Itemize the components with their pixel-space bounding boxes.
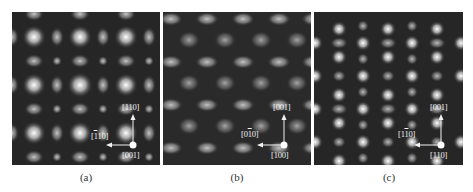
axis-label-vertical-c: [001] — [430, 103, 447, 112]
caption-b: (b) — [217, 171, 257, 183]
axis-label-zone-a: [001] — [122, 151, 139, 160]
panel-b-lattice-image: [001] [010] [100] — [163, 12, 311, 165]
axis-label-vertical-a: [110] — [122, 103, 139, 112]
axis-label-zone-b: [100] — [271, 151, 288, 160]
axis-label-horizontal-a: [110] — [91, 132, 108, 141]
axis-arrows-a — [12, 12, 160, 165]
panel-a-lattice-image: [110] [110] [001] — [12, 12, 160, 165]
caption-a: (a) — [66, 171, 106, 183]
axis-arrows-c — [314, 12, 463, 165]
axis-arrows-b — [163, 12, 311, 165]
axis-label-vertical-b: [001] — [273, 103, 290, 112]
axis-label-horizontal-c: [110] — [398, 130, 415, 139]
caption-c: (c) — [369, 171, 409, 183]
axis-label-zone-c: [110] — [430, 151, 447, 160]
axis-label-horizontal-b: [010] — [241, 130, 258, 139]
panel-c-lattice-image: [001] [110] [110] — [314, 12, 463, 165]
